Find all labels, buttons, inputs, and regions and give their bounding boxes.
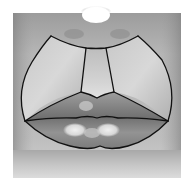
lower-lip-highlight-left — [63, 123, 87, 137]
lips-illustration — [0, 0, 190, 189]
lower-lip-highlight-right — [96, 123, 120, 137]
upper-lip-highlight — [79, 101, 93, 111]
nostril-left-shadow — [64, 29, 84, 39]
nostril-right-shadow — [110, 29, 130, 39]
lips-svg — [0, 0, 190, 189]
chin-area — [13, 150, 181, 178]
